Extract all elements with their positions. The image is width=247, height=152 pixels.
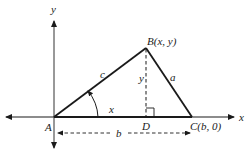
side-a-label: a [170,71,176,83]
side-a [146,48,192,117]
point-d-label: D [141,120,150,132]
height-label: y [138,72,144,84]
x-axis-label: x [238,111,244,123]
side-c [54,48,146,117]
y-axis-label: y [50,3,56,15]
angle-arc-icon [88,91,98,117]
point-c-label: C(b, 0) [190,120,222,133]
right-angle-marker [146,108,154,117]
base-segment-label: x [108,103,114,115]
point-b-label: B(x, y) [147,35,177,48]
base-label: b [116,127,122,139]
side-c-label: c [100,68,105,80]
point-a-label: A [44,121,52,133]
triangle-diagram: y x A B(x, y) C(b, 0) D c a y x b [0,0,247,152]
